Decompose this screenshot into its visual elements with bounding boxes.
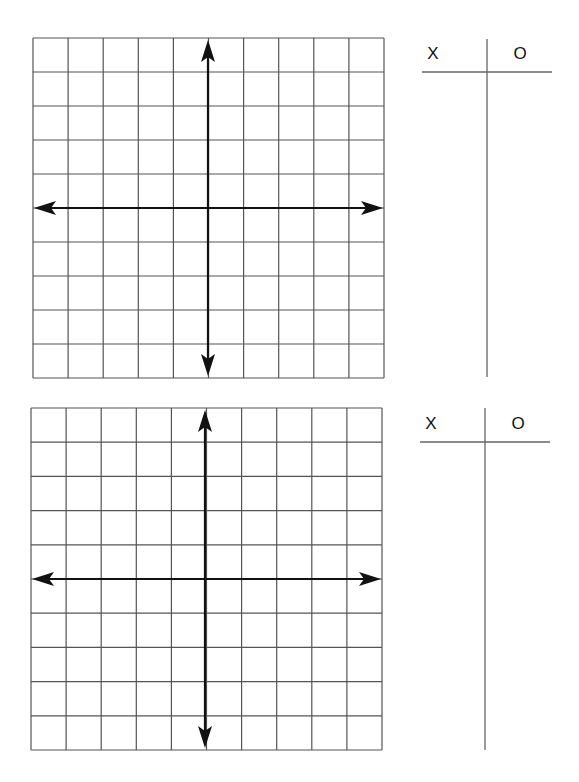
worksheet-canvas	[0, 0, 579, 782]
table-1-header-x: X	[413, 44, 453, 64]
table-1-header-o: O	[500, 44, 540, 64]
coordinate-plane-1	[33, 38, 384, 378]
table-2-header-o: O	[498, 414, 538, 434]
table-2-header-x: X	[411, 414, 451, 434]
coordinate-plane-2	[31, 408, 382, 750]
xo-table-2	[420, 408, 550, 750]
xo-table-1	[422, 39, 552, 377]
